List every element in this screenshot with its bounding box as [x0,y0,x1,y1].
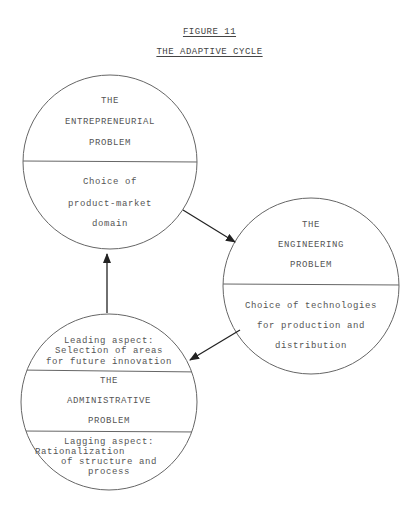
entrepreneurial-heading-3: PROBLEM [30,138,190,149]
engineering-heading-2: ENGINEERING [231,240,391,251]
administrative-heading-1: THE [29,376,189,387]
administrative-lagging-4: process [29,467,189,478]
entrepreneurial-heading-2: ENTREPRENEURIAL [30,117,190,128]
engineering-heading-3: PROBLEM [231,260,391,271]
entrepreneurial-body-3: domain [30,219,190,230]
engineering-body-2: for production and [231,321,391,332]
administrative-leading-2: Selection of areas [29,346,189,357]
engineering-heading-1: THE [231,220,391,231]
entrepreneurial-body-2: product-market [30,199,190,210]
arrow-entrepreneurial-to-engineering [183,210,235,242]
entrepreneurial-body-1: Choice of [30,177,190,188]
engineering-body-1: Choice of technologies [231,301,391,312]
entrepreneurial-heading-1: THE [30,96,190,107]
engineering-body-3: distribution [231,341,391,352]
administrative-leading-3: for future innovation [29,357,189,368]
administrative-heading-2: ADMINISTRATIVE [29,396,189,407]
administrative-heading-3: PROBLEM [29,416,189,427]
